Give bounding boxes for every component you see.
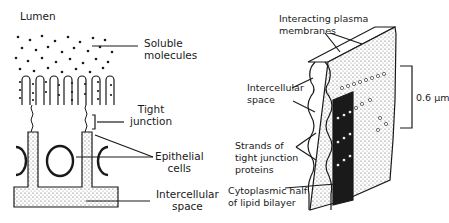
intercellular-line1: Intercellular	[156, 188, 219, 200]
space-line2: space	[247, 94, 304, 106]
soluble-line1: Soluble	[144, 37, 197, 49]
tight-junction-label: Tight junction	[130, 103, 172, 127]
strands-line1: Strands of	[235, 140, 298, 152]
membranes-line1: Interacting plasma	[279, 13, 368, 25]
membrane-block	[308, 27, 396, 210]
tight-junction-chains	[31, 105, 87, 135]
intercellular-line2: space	[156, 200, 219, 212]
scale-label: 0.6 µm	[416, 92, 449, 104]
membranes-line2: membranes	[279, 25, 368, 37]
epithelial-cells-label: Epithelial cells	[155, 150, 204, 174]
epithelial-line2: cells	[155, 162, 204, 174]
microvilli	[22, 76, 114, 105]
intercellular-space-label-right: Intercellular space	[247, 82, 304, 106]
cyto-line1: Cytoplasmic half	[228, 185, 307, 197]
space-line1: Intercellular	[247, 82, 304, 94]
soluble-line2: molecules	[144, 49, 197, 61]
intercellular-space-label-left: Intercellular space	[156, 188, 219, 212]
epithelial-line1: Epithelial	[155, 150, 204, 162]
strands-label: Strands of tight junction proteins	[235, 140, 298, 176]
intercellular-space-shape	[14, 132, 118, 207]
lumen-label: Lumen	[20, 10, 56, 22]
soluble-molecules-label: Soluble molecules	[144, 37, 197, 61]
strands-line2: tight junction	[235, 152, 298, 164]
tight-line2: junction	[130, 115, 172, 127]
interacting-membranes-label: Interacting plasma membranes	[279, 13, 368, 37]
strands-line3: proteins	[235, 164, 298, 176]
cytoplasmic-half-label: Cytoplasmic half of lipid bilayer	[228, 185, 307, 209]
cyto-line2: of lipid bilayer	[228, 197, 307, 209]
tight-line1: Tight	[130, 103, 172, 115]
